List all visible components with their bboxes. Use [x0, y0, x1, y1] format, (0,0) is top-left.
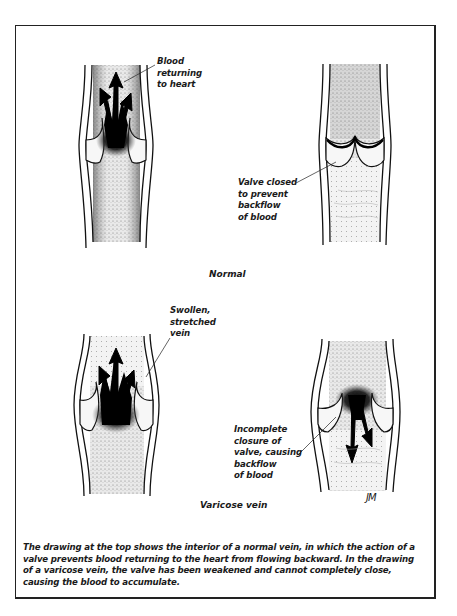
label-blood-returning: Blood returning to heart — [157, 56, 202, 91]
normal-vein-open-valve — [79, 65, 155, 248]
artist-signature: JM — [366, 492, 376, 503]
label-swollen-vein: Swollen, stretched vein — [170, 305, 216, 340]
varicose-vein-upflow — [74, 334, 170, 496]
figure-caption: The drawing at the top shows the interio… — [23, 542, 423, 589]
section-title-normal: Normal — [209, 269, 246, 279]
section-title-varicose: Varicose vein — [200, 500, 267, 510]
label-incomplete-closure: Incomplete closure of valve, causing bac… — [234, 424, 302, 482]
varicose-vein-backflow — [298, 339, 400, 492]
vein-illustrations — [0, 0, 457, 616]
normal-vein-closed-valve — [296, 64, 391, 245]
label-valve-closed: Valve closed to prevent backflow of bloo… — [238, 177, 297, 223]
